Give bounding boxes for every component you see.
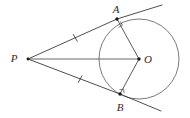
point-dot-B [118, 92, 121, 95]
point-dot-P [27, 58, 30, 61]
point-dot-A [115, 17, 118, 20]
radius-OA [117, 19, 139, 59]
point-label-O: O [144, 53, 152, 65]
tangent-segment-PA [28, 19, 117, 59]
point-label-A: A [112, 3, 120, 15]
tangent-extension-beyond-A [117, 5, 162, 19]
point-label-P: P [10, 52, 18, 64]
tangent-segment-PB [28, 59, 120, 94]
point-dot-O [137, 57, 140, 60]
geometry-figure: P A B O [0, 0, 190, 118]
radius-OB [120, 59, 139, 94]
point-label-B: B [117, 101, 124, 113]
geometry-canvas: P A B O [0, 0, 190, 118]
tangent-extension-beyond-B [120, 94, 161, 111]
